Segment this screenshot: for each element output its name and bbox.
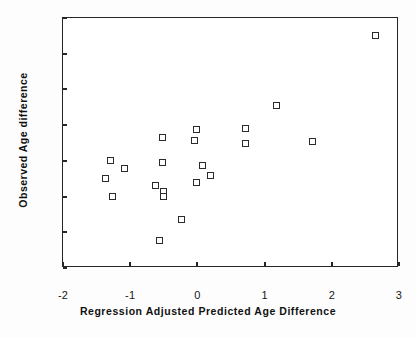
data-point — [199, 162, 206, 169]
data-point — [152, 182, 159, 189]
y-tick-mark — [63, 88, 67, 90]
x-tick-mark — [62, 262, 64, 266]
x-tick-mark — [196, 262, 198, 266]
plot-area: -3-2-101234 -2-10123 — [62, 17, 398, 267]
y-axis-label: Observed Age difference — [17, 72, 29, 207]
y-tick-mark — [63, 160, 67, 162]
data-point — [160, 193, 167, 200]
data-point — [159, 159, 166, 166]
x-tick-label: 2 — [320, 290, 344, 301]
x-tick-label: 1 — [253, 290, 277, 301]
data-point — [156, 237, 163, 244]
y-tick-mark — [63, 124, 67, 126]
y-tick-mark — [63, 17, 67, 19]
data-point — [109, 193, 116, 200]
data-point — [309, 138, 316, 145]
data-point — [372, 32, 379, 39]
data-point — [102, 175, 109, 182]
data-point — [273, 102, 280, 109]
data-point — [121, 165, 128, 172]
y-tick-mark — [63, 231, 67, 233]
data-point — [193, 126, 200, 133]
y-tick-mark — [63, 53, 67, 55]
x-tick-mark — [331, 262, 333, 266]
y-axis-label-container: Observed Age difference — [10, 0, 36, 280]
y-tick-mark — [63, 196, 67, 198]
x-tick-mark — [129, 262, 131, 266]
data-point — [242, 125, 249, 132]
data-point — [191, 137, 198, 144]
y-tick-mark — [63, 267, 67, 269]
x-tick-label: -1 — [118, 290, 142, 301]
scatter-plot-figure: Observed Age difference -3-2-101234 -2-1… — [0, 0, 416, 338]
data-point — [107, 157, 114, 164]
x-tick-label: -2 — [51, 290, 75, 301]
data-point — [207, 172, 214, 179]
x-tick-label: 0 — [185, 290, 209, 301]
x-axis-label: Regression Adjusted Predicted Age Differ… — [0, 305, 416, 317]
data-point — [159, 134, 166, 141]
data-point — [242, 140, 249, 147]
x-tick-mark — [398, 262, 400, 266]
data-point — [178, 216, 185, 223]
x-tick-mark — [264, 262, 266, 266]
data-point — [193, 179, 200, 186]
x-tick-label: 3 — [387, 290, 411, 301]
